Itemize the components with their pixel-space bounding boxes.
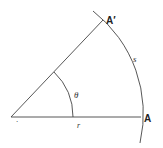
vertex-mark: . (16, 115, 18, 124)
label-radius-r: r (77, 121, 81, 130)
radius-line-oa-prime (11, 20, 103, 117)
label-arc-length-s: s (133, 54, 137, 64)
angle-arc-theta (54, 72, 73, 117)
label-theta: θ (74, 90, 79, 100)
arc-angle-diagram: A′ A θ s r . (0, 0, 163, 148)
label-a: A (144, 113, 151, 124)
label-a-prime: A′ (106, 15, 116, 26)
circle-arc (93, 11, 143, 143)
